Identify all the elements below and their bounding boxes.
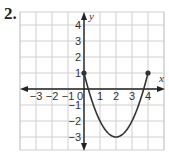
endpoint-dot <box>145 70 150 75</box>
x-tick-label: 4 <box>145 90 151 102</box>
graph: xy−3−2−1012344321−1−2−3 <box>0 0 169 154</box>
y-axis-up-arrow-icon <box>81 12 87 20</box>
x-tick-label: −2 <box>46 90 59 102</box>
grid-border <box>20 12 164 150</box>
x-axis-left-arrow-icon <box>20 86 28 92</box>
x-axis-label: x <box>158 72 164 84</box>
y-tick-label: 2 <box>75 51 81 63</box>
x-tick-label: 1 <box>97 90 103 102</box>
y-tick-label: 4 <box>75 19 81 31</box>
x-tick-label: 3 <box>129 90 135 102</box>
y-tick-label: 3 <box>75 35 81 47</box>
y-tick-label: −3 <box>68 131 81 143</box>
y-tick-label: −1 <box>68 99 81 111</box>
y-tick-label: 1 <box>75 67 81 79</box>
y-axis-label: y <box>88 10 94 22</box>
x-tick-label: 2 <box>113 90 119 102</box>
x-tick-label: −3 <box>30 90 43 102</box>
endpoint-dot <box>81 70 86 75</box>
y-tick-label: −2 <box>68 115 81 127</box>
